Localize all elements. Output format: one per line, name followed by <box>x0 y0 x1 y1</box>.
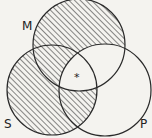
venn-diagram: M S P * <box>0 0 152 138</box>
center-asterisk: * <box>74 71 80 84</box>
label-s: S <box>4 117 12 131</box>
label-p: P <box>140 117 147 131</box>
label-m: M <box>22 19 32 33</box>
